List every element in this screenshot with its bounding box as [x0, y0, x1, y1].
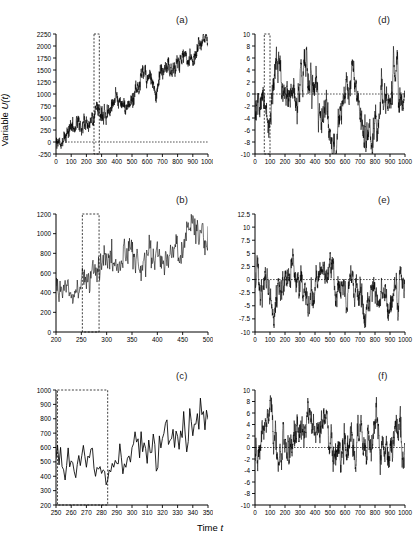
y-tick-label-b: 200: [40, 309, 51, 316]
x-tick-label-a: 0: [54, 158, 58, 165]
x-tick-label-e: 800: [370, 336, 381, 343]
y-tick-label-b: 0: [47, 329, 51, 336]
y-tick-label-d: -8: [244, 139, 250, 146]
y-tick-label-d: 0: [246, 91, 250, 98]
x-tick-label-a: 200: [81, 158, 92, 165]
y-tick-label-d: 4: [246, 67, 250, 74]
x-tick-label-a: 100: [66, 158, 77, 165]
x-tick-label-c: 290: [111, 509, 122, 516]
y-tick-label-f: 8: [246, 398, 250, 405]
y-tick-label-a: -250: [38, 151, 51, 158]
y-tick-label-b: 400: [40, 289, 51, 296]
highlight-box-c: [58, 390, 108, 505]
x-tick-label-d: 100: [265, 158, 276, 165]
y-tick-label-a: 2250: [37, 31, 52, 38]
x-tick-label-f: 100: [265, 509, 276, 516]
x-tick-label-e: 600: [340, 336, 351, 343]
x-tick-label-d: 400: [310, 158, 321, 165]
panel-label-e: (e): [378, 194, 390, 205]
x-tick-label-c: 270: [81, 509, 92, 516]
y-tick-label-c: 400: [40, 473, 51, 480]
x-tick-label-e: 500: [325, 336, 336, 343]
x-tick-label-b: 450: [177, 336, 188, 343]
y-tick-label-b: 600: [40, 270, 51, 277]
y-tick-label-e: 5: [246, 250, 250, 257]
y-tick-label-d: 2: [246, 79, 250, 86]
y-tick-label-e: 12.5: [238, 211, 251, 218]
x-tick-label-a: 300: [96, 158, 107, 165]
y-tick-label-f: -6: [244, 479, 250, 486]
x-tick-label-d: 1000: [398, 158, 413, 165]
x-tick-label-b: 300: [101, 336, 112, 343]
data-line-e-0: [255, 249, 405, 328]
x-tick-label-d: 600: [340, 158, 351, 165]
y-tick-label-d: -2: [244, 103, 250, 110]
panel-label-c: (c): [176, 370, 188, 381]
x-tick-label-d: 0: [253, 158, 257, 165]
y-tick-label-d: 8: [246, 43, 250, 50]
y-tick-label-e: -2.5: [239, 289, 250, 296]
y-tick-label-a: 500: [40, 115, 51, 122]
data-line-b-0: [56, 214, 208, 303]
y-tick-label-c: 600: [40, 444, 51, 451]
y-tick-label-e: -10: [241, 329, 251, 336]
x-tick-label-a: 1000: [201, 158, 213, 165]
y-tick-label-a: 1000: [37, 91, 52, 98]
panel-label-a: (a): [176, 14, 188, 25]
y-tick-label-b: 800: [40, 250, 51, 257]
x-tick-label-c: 250: [51, 509, 62, 516]
y-tick-label-e: 0: [246, 276, 250, 283]
x-tick-label-d: 300: [295, 158, 306, 165]
y-tick-label-d: -4: [244, 115, 250, 122]
y-tick-label-d: 10: [243, 31, 251, 38]
x-tick-label-f: 900: [385, 509, 396, 516]
x-tick-label-f: 300: [295, 509, 306, 516]
x-tick-label-f: 200: [280, 509, 291, 516]
y-tick-label-e: 2.5: [241, 263, 250, 270]
y-tick-label-f: -2: [244, 456, 250, 463]
y-tick-label-f: 6: [246, 410, 250, 417]
x-tick-label-e: 100: [265, 336, 276, 343]
x-tick-label-e: 700: [355, 336, 366, 343]
highlight-box-a: [94, 34, 99, 154]
x-tick-label-a: 700: [157, 158, 168, 165]
y-tick-label-c: 300: [40, 487, 51, 494]
x-tick-label-e: 400: [310, 336, 321, 343]
x-tick-label-a: 900: [187, 158, 198, 165]
x-tick-label-c: 350: [203, 509, 213, 516]
x-tick-label-e: 200: [280, 336, 291, 343]
x-tick-label-a: 500: [127, 158, 138, 165]
y-tick-label-d: -6: [244, 127, 250, 134]
x-tick-label-c: 260: [66, 509, 77, 516]
x-tick-label-d: 500: [325, 158, 336, 165]
x-tick-label-d: 200: [280, 158, 291, 165]
x-tick-label-b: 350: [127, 336, 138, 343]
y-tick-label-c: 900: [40, 401, 51, 408]
chart-svg-b: 0200400600800100012002002503003504004505…: [8, 184, 213, 362]
y-tick-label-f: -4: [244, 467, 250, 474]
x-tick-label-a: 600: [142, 158, 153, 165]
chart-panel-c: 2003004005006007008009001000250260270280…: [8, 364, 213, 534]
chart-panel-e: -10-7.5-5-2.502.557.51012.50100200300400…: [213, 184, 419, 362]
chart-panel-f: -10-8-6-4-202468100100200300400500600700…: [213, 364, 419, 534]
y-tick-label-f: 2: [246, 433, 250, 440]
figure-canvas: Variable U(t) Time t -250025050075010001…: [0, 0, 419, 541]
y-tick-label-f: 4: [246, 421, 250, 428]
x-tick-label-c: 340: [187, 509, 198, 516]
x-tick-label-c: 330: [172, 509, 183, 516]
x-tick-label-b: 400: [152, 336, 163, 343]
data-line-d-0: [255, 46, 405, 153]
x-tick-label-c: 320: [157, 509, 168, 516]
y-tick-label-d: 6: [246, 55, 250, 62]
chart-svg-d: -10-8-6-4-202468100100200300400500600700…: [213, 6, 419, 181]
y-tick-label-c: 500: [40, 458, 51, 465]
x-tick-label-a: 400: [111, 158, 122, 165]
x-tick-label-f: 0: [253, 509, 257, 516]
x-tick-label-c: 310: [142, 509, 153, 516]
chart-svg-c: 2003004005006007008009001000250260270280…: [8, 364, 213, 534]
chart-svg-a: -250025050075010001250150017502000225001…: [8, 6, 213, 181]
x-tick-label-d: 800: [370, 158, 381, 165]
chart-svg-f: -10-8-6-4-202468100100200300400500600700…: [213, 364, 419, 534]
y-tick-label-e: -7.5: [239, 315, 250, 322]
y-tick-label-a: 0: [47, 139, 51, 146]
